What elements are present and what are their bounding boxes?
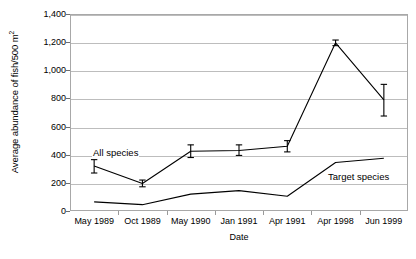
x-axis-tick-label: May 1990 — [171, 216, 211, 226]
x-axis-tick-labels: May 1989Oct 1989May 1990Jan 1991Apr 1991… — [70, 216, 408, 232]
x-axis-tick-label: Jan 1991 — [220, 216, 257, 226]
x-axis-tick-label: May 1989 — [74, 216, 114, 226]
y-axis-tick-label: 0 — [20, 207, 66, 216]
y-axis-tick-label: 600 — [20, 122, 66, 131]
y-axis-tick-label: 1,400 — [20, 10, 66, 19]
x-axis-tick-mark — [360, 211, 361, 215]
y-axis-tick-label: 800 — [20, 94, 66, 103]
series-label-all-species: All species — [92, 147, 139, 158]
y-axis-tick-labels: 02004006008001,0001,2001,400 — [18, 0, 66, 259]
x-axis-tick-mark — [215, 211, 216, 215]
chart-container: Average abundance of fish/500 m2 0200400… — [0, 0, 416, 259]
x-axis-tick-mark — [167, 211, 168, 215]
x-axis-tick-label: Jun 1999 — [365, 216, 402, 226]
x-axis-tick-label: Apr 1998 — [317, 216, 354, 226]
y-axis-tick-mark — [66, 211, 70, 212]
x-axis-tick-label: Oct 1989 — [124, 216, 161, 226]
series-label-target-species: Target species — [327, 171, 390, 182]
y-axis-tick-label: 400 — [20, 150, 66, 159]
x-axis-tick-mark — [118, 211, 119, 215]
x-axis-tick-mark — [311, 211, 312, 215]
x-axis-tick-label: Apr 1991 — [269, 216, 306, 226]
y-axis-tick-label: 1,000 — [20, 66, 66, 75]
y-axis-title-superscript: 2 — [8, 31, 15, 35]
x-axis-tick-mark — [263, 211, 264, 215]
error-bars-all-species — [91, 40, 387, 187]
y-axis-tick-label: 1,200 — [20, 38, 66, 47]
y-axis-tick-label: 200 — [20, 178, 66, 187]
x-axis-title: Date — [70, 232, 408, 242]
